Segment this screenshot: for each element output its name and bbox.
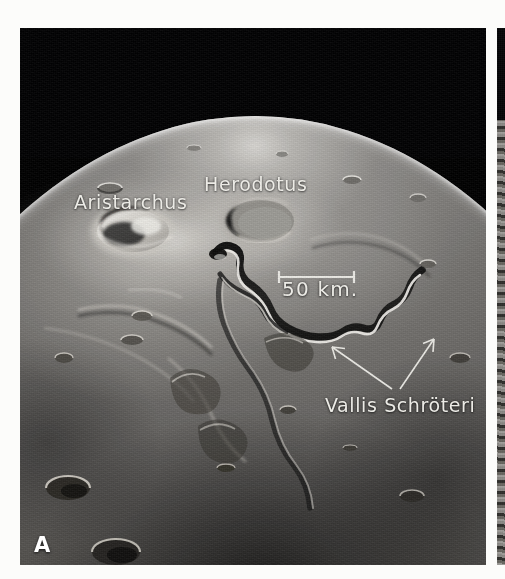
leader-arrows — [332, 339, 434, 389]
label-aristarchus: Aristarchus — [74, 191, 188, 213]
panel-gutter — [486, 28, 497, 565]
arrow-to-rille-east — [400, 339, 434, 389]
figure-page: Aristarchus Herodotus Vallis Schröteri 5… — [0, 0, 505, 579]
label-herodotus: Herodotus — [204, 173, 307, 195]
label-vallis-schroeteri: Vallis Schröteri — [325, 394, 475, 416]
lunar-terrain-features — [20, 28, 486, 565]
arrow-to-rille-west — [332, 347, 392, 389]
panel-b-surface — [497, 120, 505, 565]
figure-panel-a: Aristarchus Herodotus Vallis Schröteri 5… — [20, 28, 486, 565]
herodotus-crater — [220, 195, 300, 247]
figure-panel-b-cropped — [497, 28, 505, 565]
panel-letter-a: A — [34, 533, 51, 557]
panel-b-sky — [497, 28, 505, 124]
scale-bar-label: 50 km. — [282, 277, 358, 301]
